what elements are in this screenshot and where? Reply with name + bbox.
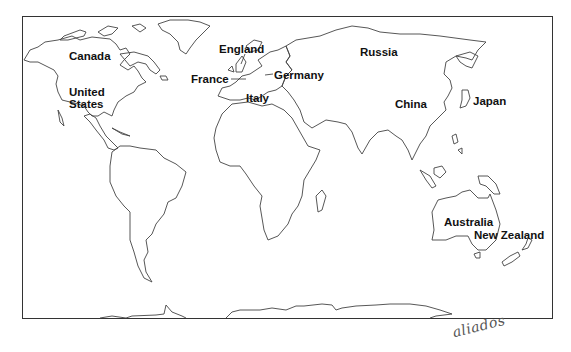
label-united-states: United States	[69, 86, 105, 110]
label-new-zealand: New Zealand	[474, 229, 544, 241]
label-japan: Japan	[473, 95, 506, 107]
label-england: England	[219, 43, 264, 55]
label-china: China	[395, 98, 427, 110]
label-canada: Canada	[69, 50, 111, 62]
label-russia: Russia	[360, 46, 398, 58]
antarctica-outline	[100, 305, 186, 318]
new-zealand-outline	[502, 252, 520, 266]
africa-outline	[214, 102, 320, 240]
label-germany: Germany	[274, 69, 324, 81]
label-france: France	[191, 73, 229, 85]
south-america-outline	[110, 146, 186, 282]
label-italy: Italy	[246, 92, 269, 104]
label-australia: Australia	[444, 216, 493, 228]
